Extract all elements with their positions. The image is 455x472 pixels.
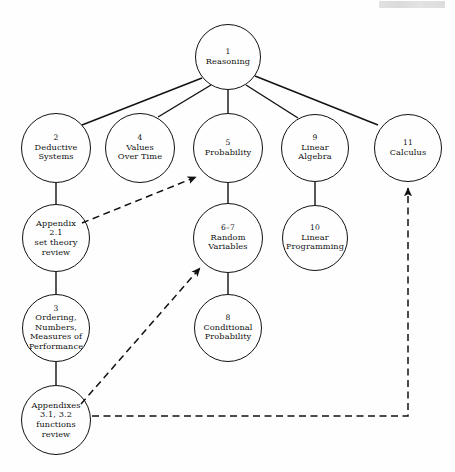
- node-label-line: Over Time: [118, 152, 162, 162]
- node-label-line: review: [42, 430, 70, 440]
- node-label-line: Variables: [208, 242, 247, 252]
- node-label-line: Programming: [286, 242, 344, 252]
- node-label-line: Performance: [29, 342, 83, 352]
- node-values-over-time[interactable]: 4ValuesOver Time: [105, 113, 175, 183]
- node-deductive[interactable]: 2DeductiveSystems: [21, 113, 91, 183]
- node-label-line: Reasoning: [206, 57, 250, 67]
- course-dependency-diagram: 1Reasoning2DeductiveSystems4ValuesOver T…: [0, 0, 455, 472]
- node-calculus[interactable]: 11Calculus: [374, 114, 442, 182]
- node-label-line: Systems: [38, 152, 73, 162]
- node-ordering[interactable]: 3Ordering,Numbers,Measures ofPerformance: [22, 294, 90, 362]
- edge-reasoning-values: [158, 85, 211, 117]
- node-label-line: Algebra: [298, 152, 331, 162]
- node-label-line: Probability: [205, 332, 252, 342]
- node-probability[interactable]: 5Probability: [193, 113, 263, 183]
- edge-appendixes-random: [81, 268, 200, 404]
- node-label-line: review: [42, 248, 70, 258]
- node-reasoning[interactable]: 1Reasoning: [195, 24, 261, 90]
- node-appendixes[interactable]: Appendixes3.1, 3.2functionsreview: [21, 385, 91, 455]
- node-conditional[interactable]: 8ConditionalProbability: [194, 294, 262, 362]
- node-appendix-2-1[interactable]: Appendix2.1set theoryreview: [22, 204, 90, 272]
- edge-appendix21-probability: [82, 177, 196, 223]
- node-label-line: Calculus: [390, 148, 427, 158]
- node-label-line: Probability: [205, 148, 252, 158]
- node-linear-prog[interactable]: 10LinearProgramming: [282, 205, 348, 271]
- node-random-variables[interactable]: 6–7RandomVariables: [193, 203, 263, 273]
- node-linear-algebra[interactable]: 9LinearAlgebra: [281, 114, 349, 182]
